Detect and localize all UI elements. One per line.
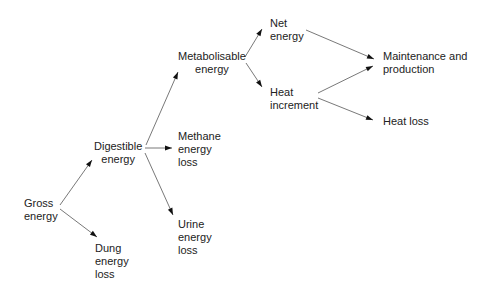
arrow-heat-increment-to-maintenance xyxy=(318,66,373,93)
node-label: Gross xyxy=(24,197,58,210)
node-label: energy xyxy=(270,30,304,43)
node-label: loss xyxy=(178,244,212,257)
node-label: energy xyxy=(94,153,142,166)
arrow-metabolisable-to-net xyxy=(245,29,262,57)
node-label: energy xyxy=(178,63,246,76)
arrow-digestible-to-urine xyxy=(145,153,173,215)
node-label: energy xyxy=(95,255,129,268)
node-label: increment xyxy=(270,99,318,112)
node-gross-energy: Gross energy xyxy=(24,197,58,223)
node-label: energy xyxy=(178,143,221,156)
node-net-energy: Net energy xyxy=(270,17,304,43)
node-dung-energy-loss: Dung energy loss xyxy=(95,242,129,281)
node-urine-energy-loss: Urine energy loss xyxy=(178,218,212,257)
node-label: Methane xyxy=(178,130,221,143)
arrow-gross-to-dung xyxy=(60,209,97,237)
node-methane-energy-loss: Methane energy loss xyxy=(178,130,221,169)
arrow-digestible-to-metabolisable xyxy=(146,72,178,145)
node-label: Metabolisable xyxy=(178,50,246,63)
edge-layer xyxy=(0,0,483,289)
node-label: Heat xyxy=(270,86,318,99)
node-label: loss xyxy=(95,268,129,281)
node-label: loss xyxy=(178,156,221,169)
node-label: Dung xyxy=(95,242,129,255)
node-label: Digestible xyxy=(94,140,142,153)
node-label: Heat loss xyxy=(383,115,429,128)
node-heat-increment: Heat increment xyxy=(270,86,318,112)
arrow-net-to-maintenance xyxy=(306,30,374,59)
arrow-heat-increment-to-heat-loss xyxy=(318,98,373,120)
node-label: Maintenance and xyxy=(383,50,467,63)
node-label: energy xyxy=(24,210,58,223)
node-heat-loss: Heat loss xyxy=(383,115,429,128)
arrow-metabolisable-to-heat-increment xyxy=(246,63,262,87)
node-label: energy xyxy=(178,231,212,244)
node-label: Net xyxy=(270,17,304,30)
node-maintenance-and-production: Maintenance and production xyxy=(383,50,467,76)
node-label: production xyxy=(383,63,467,76)
node-digestible-energy: Digestible energy xyxy=(94,140,142,166)
arrow-gross-to-digestible xyxy=(60,160,92,205)
node-metabolisable-energy: Metabolisable energy xyxy=(178,50,246,76)
node-label: Urine xyxy=(178,218,212,231)
